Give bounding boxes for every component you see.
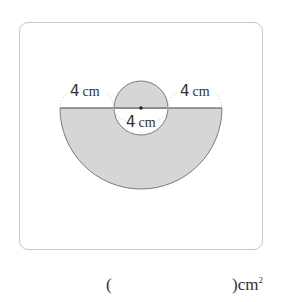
answer-unit: )cm2 xyxy=(232,275,263,295)
unit-text: cm2 xyxy=(238,275,263,294)
open-parenthesis: ( xyxy=(106,275,112,295)
left-arc-label: 4cm xyxy=(70,82,100,100)
unit-exponent: 2 xyxy=(258,275,263,285)
unit-base: cm xyxy=(238,275,259,294)
answer-blank: ( )cm2 xyxy=(0,275,283,299)
right-arc-label: 4cm xyxy=(180,82,210,100)
small-circle-upper-half xyxy=(114,81,168,108)
center-point xyxy=(139,106,143,110)
small-diameter-label: 4cm xyxy=(126,113,156,131)
geometry-figure: 4cm 4cm 4cm xyxy=(0,0,283,302)
